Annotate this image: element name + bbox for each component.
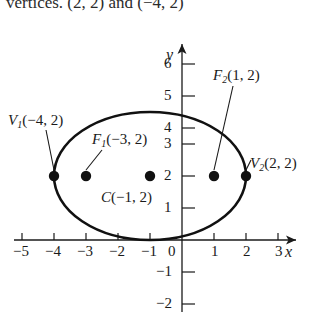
y-tick-neg1: −1 [156, 263, 172, 280]
leader-line-f2 [214, 86, 233, 170]
y-tick-5: 5 [164, 87, 172, 104]
label-v2-name: V [250, 155, 259, 171]
y-tick-neg2: −2 [156, 295, 172, 312]
label-v2: V2(2, 2) [250, 155, 297, 173]
leader-line-v1 [46, 130, 54, 170]
label-center-name: C [101, 189, 111, 205]
x-tick-neg2: −2 [109, 243, 125, 260]
label-f2: F2(1, 2) [213, 67, 260, 85]
x-tick-3: 3 [275, 243, 283, 260]
y-tick-6: 6 [164, 55, 172, 72]
label-center: C(−1, 2) [101, 189, 152, 206]
x-tick-neg3: −3 [77, 243, 93, 260]
y-tick-2: 2 [164, 167, 172, 184]
x-tick-1: 1 [211, 243, 219, 260]
label-center-coords: (−1, 2) [111, 189, 152, 205]
label-v1-coords: (−4, 2) [22, 112, 63, 128]
label-f1-coords: (−3, 2) [106, 131, 147, 147]
label-f1-name: F [92, 131, 101, 147]
point-center [145, 171, 155, 181]
x-tick-neg1: −1 [141, 243, 157, 260]
point-f2 [209, 171, 219, 181]
x-tick-neg4: −4 [45, 243, 61, 260]
point-f1 [81, 171, 91, 181]
y-axis-ticks [182, 64, 195, 304]
y-tick-4: 4 [164, 119, 172, 136]
origin-label: 0 [168, 243, 176, 260]
label-v1: V1(−4, 2) [8, 112, 63, 130]
label-f2-coords: (1, 2) [227, 67, 260, 83]
label-f1: F1(−3, 2) [92, 131, 147, 149]
y-tick-1: 1 [164, 199, 172, 216]
point-v1 [49, 171, 59, 181]
leader-line-f1 [86, 150, 102, 170]
label-v1-name: V [8, 112, 17, 128]
label-v2-coords: (2, 2) [264, 155, 297, 171]
figure-page: vertices. (2, 2) and (−4, 2) [0, 0, 309, 328]
label-f2-name: F [213, 67, 222, 83]
x-tick-neg5: −5 [13, 243, 29, 260]
x-axis-label: x [285, 243, 292, 261]
y-tick-3: 3 [164, 135, 172, 152]
x-tick-2: 2 [243, 243, 251, 260]
